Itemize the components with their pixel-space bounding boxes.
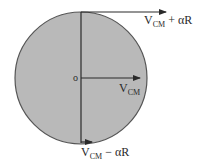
top-velocity-label: VCM + αR (144, 13, 192, 29)
center-point-label: o (73, 72, 78, 83)
bottom-velocity-label: VCM − αR (81, 145, 129, 161)
rolling-disc-diagram: o VCM + αR VCM VCM − αR (0, 0, 204, 166)
